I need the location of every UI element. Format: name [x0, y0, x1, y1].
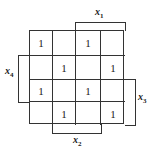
- label-x4: x4: [5, 65, 14, 79]
- cell-r3-c2: [53, 80, 76, 102]
- bracket-x3: [125, 79, 136, 126]
- bracket-x4: [18, 55, 29, 103]
- cell-r4-c1: [30, 102, 53, 125]
- cell-r1-c2: [53, 31, 76, 56]
- cell-r2-c1: [30, 56, 53, 80]
- cell-r4-c4: 1: [101, 102, 125, 125]
- cell-r1-c3: 1: [76, 31, 101, 56]
- bracket-x1: [75, 22, 126, 31]
- cell-r4-c2: 1: [53, 102, 76, 125]
- label-x2: x2: [73, 134, 82, 148]
- label-x2-sub: 2: [78, 140, 82, 148]
- cell-r3-c1: 1: [30, 80, 53, 102]
- bracket-x2: [52, 124, 102, 134]
- cell-r1-c4: [101, 31, 125, 56]
- cell-r4-c3: [76, 102, 101, 125]
- cell-r3-c4: [101, 80, 125, 102]
- kmap-grid: 1 1 1 1 1 1 1 1: [29, 30, 124, 124]
- cell-r3-c3: 1: [76, 80, 101, 102]
- cell-r2-c2: 1: [53, 56, 76, 80]
- cell-r2-c4: 1: [101, 56, 125, 80]
- label-x1-sub: 1: [100, 12, 104, 20]
- label-x3-sub: 3: [143, 97, 147, 105]
- cell-r2-c3: [76, 56, 101, 80]
- label-x1: x1: [95, 6, 104, 20]
- label-x4-sub: 4: [10, 71, 14, 79]
- cell-r1-c1: 1: [30, 31, 53, 56]
- label-x3: x3: [138, 91, 147, 105]
